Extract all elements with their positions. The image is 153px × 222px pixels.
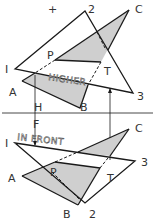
label-t-front: T <box>106 172 114 185</box>
label-3-front: 3 <box>141 156 148 169</box>
shaded-quad-front <box>22 162 100 205</box>
label-c-top: C <box>135 3 143 16</box>
front-view: F I C 3 A P T B 2 IN FRONT <box>5 113 148 221</box>
label-a-top: A <box>9 86 17 99</box>
label-t-top: T <box>103 65 111 78</box>
label-1-front: I <box>5 137 8 150</box>
label-c-front: C <box>135 122 143 135</box>
label-f: F <box>33 118 39 131</box>
label-h: H <box>34 101 42 114</box>
label-a-front: A <box>8 172 16 185</box>
label-b-top: B <box>80 101 88 114</box>
label-b-front: B <box>63 208 71 221</box>
label-2-front: 2 <box>89 208 96 221</box>
label-2-top: 2 <box>88 3 95 16</box>
intersection-diagram: + 2 C P I T A 3 B H HIGHER F I C 3 A P T… <box>0 0 153 222</box>
plus-mark: + <box>48 3 57 16</box>
label-3-top: 3 <box>137 90 144 103</box>
label-p-top: P <box>47 49 54 62</box>
label-p-front: P <box>50 166 57 179</box>
label-1-top: I <box>5 63 8 76</box>
